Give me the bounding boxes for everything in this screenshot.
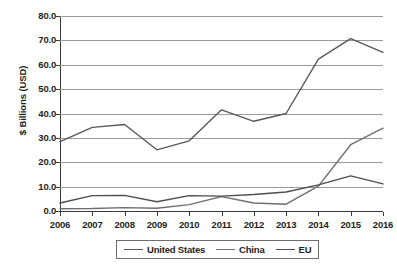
series-container	[60, 16, 383, 211]
x-tick-mark	[125, 212, 126, 216]
y-tick-label: 10.0	[16, 181, 56, 192]
legend-label: United States	[147, 244, 205, 255]
y-tick-label: 50.0	[16, 83, 56, 94]
y-tick-label: 60.0	[16, 59, 56, 70]
legend-entry-china[interactable]: China	[216, 244, 264, 255]
legend-line-swatch	[276, 249, 295, 250]
line-chart: $ Billions (USD) 0.010.020.030.040.050.0…	[0, 0, 397, 271]
x-tick-mark	[189, 212, 190, 216]
x-tick-mark	[92, 212, 93, 216]
legend-line-swatch	[216, 249, 235, 250]
y-tick-label: 30.0	[16, 132, 56, 143]
series-line-eu	[60, 176, 383, 203]
y-tick-label: 0.0	[16, 205, 56, 216]
x-tick-mark	[286, 212, 287, 216]
y-tick-label: 80.0	[16, 10, 56, 21]
x-tick-mark	[60, 212, 61, 216]
x-tick-mark	[254, 212, 255, 216]
x-tick-mark	[222, 212, 223, 216]
y-axis-title: $ Billions (USD)	[17, 36, 28, 166]
y-tick-label: 40.0	[16, 108, 56, 119]
x-tick-mark	[351, 212, 352, 216]
x-tick-label: 2016	[363, 219, 397, 230]
legend-label: China	[239, 244, 264, 255]
plot-area	[60, 16, 383, 211]
y-tick-label: 70.0	[16, 34, 56, 45]
x-tick-mark	[318, 212, 319, 216]
legend-line-swatch	[124, 249, 143, 250]
legend: United StatesChinaEU	[116, 240, 319, 259]
legend-entry-united-states[interactable]: United States	[124, 244, 205, 255]
y-tick-label: 20.0	[16, 156, 56, 167]
x-tick-mark	[383, 212, 384, 216]
series-line-united-states	[60, 39, 383, 150]
legend-entry-eu[interactable]: EU	[276, 244, 312, 255]
legend-label: EU	[299, 244, 312, 255]
x-tick-mark	[157, 212, 158, 216]
